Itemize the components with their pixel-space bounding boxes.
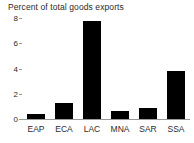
- bar-sar: [139, 108, 157, 119]
- y-tick-mark: [19, 43, 22, 44]
- bar-ssa: [167, 71, 185, 119]
- bar-eap: [27, 114, 45, 119]
- x-tick-label-sar: SAR: [139, 124, 156, 134]
- y-tick-mark: [19, 69, 22, 70]
- y-tick-mark: [19, 119, 22, 120]
- y-tick-label: 8: [6, 14, 18, 23]
- y-axis-tick-labels: 02468: [4, 0, 18, 143]
- y-tick-label: 2: [6, 89, 18, 98]
- x-tick-label-ssa: SSA: [167, 124, 184, 134]
- y-tick-mark: [19, 18, 22, 19]
- y-tick-label: 6: [6, 39, 18, 48]
- bar-mna: [111, 111, 129, 119]
- x-tick-label-eap: EAP: [27, 124, 44, 134]
- y-tick-mark: [19, 94, 22, 95]
- x-axis-line: [19, 119, 190, 120]
- x-tick-label-eca: ECA: [55, 124, 72, 134]
- bar-lac: [83, 21, 101, 119]
- bar-chart: Percent of total goods exports 02468 EAP…: [0, 0, 194, 143]
- y-tick-label: 4: [6, 64, 18, 73]
- y-tick-label: 0: [6, 115, 18, 124]
- bar-eca: [55, 103, 73, 119]
- x-tick-label-lac: LAC: [84, 124, 101, 134]
- chart-title: Percent of total goods exports: [8, 2, 124, 12]
- plot-area: [22, 18, 190, 119]
- x-tick-label-mna: MNA: [111, 124, 130, 134]
